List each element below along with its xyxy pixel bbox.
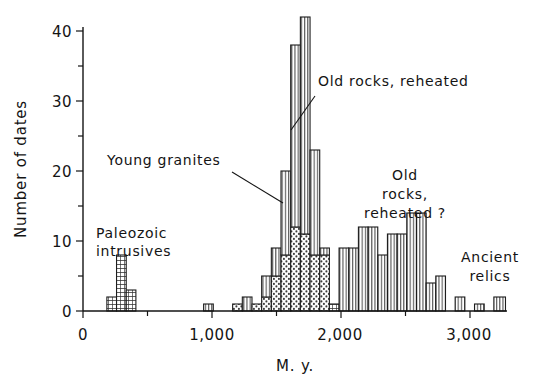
histogram-bar — [262, 276, 272, 297]
histogram-bar — [300, 17, 310, 234]
histogram-bar — [339, 248, 349, 311]
y-axis-title: Number of dates — [12, 100, 30, 238]
annotation-old-rocks-q-line1: Old — [392, 167, 418, 183]
histogram-bar — [271, 248, 281, 276]
x-tick-label-2000: 2,000 — [317, 326, 362, 344]
histogram-bar — [416, 213, 426, 311]
histogram-bar — [475, 304, 485, 311]
y-tick-label-10: 10 — [52, 233, 72, 251]
histogram-bar — [349, 248, 359, 311]
histogram-bar — [252, 304, 262, 311]
histogram-bar — [281, 171, 291, 255]
histogram-bar — [204, 304, 214, 311]
annotation-ancient-relics-line2: relics — [469, 268, 510, 284]
annotation-paleozoic-line2: intrusives — [96, 243, 171, 259]
figure-root: 0 10 20 30 40 0 1,000 2,000 3,000 Number… — [0, 0, 542, 392]
histogram-bar — [233, 304, 243, 311]
histogram-bar — [310, 150, 320, 255]
histogram-bar — [455, 297, 465, 311]
histogram-bar — [436, 276, 446, 311]
histogram-bar — [426, 283, 436, 311]
histogram-bar — [494, 297, 506, 311]
histogram-chart: 0 10 20 30 40 0 1,000 2,000 3,000 Number… — [0, 0, 542, 392]
histogram-bar — [358, 227, 368, 311]
histogram-bar — [407, 213, 417, 311]
histogram-bar — [107, 297, 117, 311]
histogram-bar — [300, 234, 310, 311]
annotation-old-rocks-reheated: Old rocks, reheated — [318, 73, 469, 89]
x-tick-label-0: 0 — [78, 326, 88, 344]
histogram-bar — [281, 255, 291, 311]
histogram-bar — [378, 255, 388, 311]
histogram-bar — [320, 255, 330, 311]
x-tick-label-3000: 3,000 — [446, 326, 491, 344]
histogram-bar — [387, 234, 397, 311]
histogram-bar — [291, 227, 301, 311]
histogram-bar — [397, 234, 407, 311]
y-tick-label-0: 0 — [62, 303, 72, 321]
histogram-bar — [291, 45, 301, 227]
x-axis-title: M. y. — [276, 357, 314, 375]
annotation-old-rocks-q-line3: reheated ? — [364, 205, 446, 221]
histogram-bar — [126, 290, 136, 311]
histogram-bar — [242, 297, 252, 311]
histogram-bar — [368, 227, 378, 311]
histogram-bar — [320, 248, 330, 255]
annotation-ancient-relics-line1: Ancient — [461, 249, 519, 265]
x-tick-label-1000: 1,000 — [189, 326, 234, 344]
annotation-old-rocks-q-line2: rocks, — [382, 186, 428, 202]
y-tick-label-40: 40 — [52, 23, 72, 41]
annotation-paleozoic-line1: Paleozoic — [96, 225, 167, 241]
histogram-bar — [262, 297, 272, 311]
histogram-bar — [117, 255, 127, 311]
histogram-bar — [271, 276, 281, 311]
histogram-bar — [329, 304, 339, 311]
y-tick-label-20: 20 — [52, 163, 72, 181]
y-tick-label-30: 30 — [52, 93, 72, 111]
leader-line-young-granites — [232, 172, 283, 203]
histogram-bar — [310, 255, 320, 311]
annotation-young-granites: Young granites — [106, 152, 221, 168]
